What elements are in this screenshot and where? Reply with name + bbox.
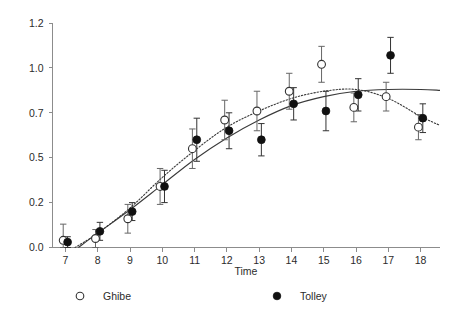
y-tick-label: 1.0 [29, 62, 44, 74]
x-tick-label: 10 [156, 254, 168, 266]
data-point-ghibe [124, 215, 132, 223]
data-points [59, 51, 426, 246]
data-point-tolley [419, 114, 427, 122]
data-point-tolley [225, 127, 233, 135]
data-point-tolley [128, 208, 136, 216]
data-point-tolley [354, 91, 362, 99]
x-tick-label: 8 [95, 254, 101, 266]
scatter-plot-with-error-bars: 0.00.20.50.71.01.2 789101112131415161718… [0, 0, 461, 313]
data-point-ghibe [221, 116, 229, 124]
data-point-tolley [387, 51, 395, 59]
legend-label-tolley: Tolley [300, 290, 328, 302]
legend-marker-ghibe [76, 292, 84, 300]
x-tick-label: 12 [221, 254, 233, 266]
data-point-tolley [161, 183, 169, 191]
x-tick-label: 7 [62, 254, 68, 266]
data-point-tolley [257, 136, 265, 144]
axes [53, 23, 441, 248]
data-point-tolley [64, 238, 72, 246]
data-point-ghibe [350, 104, 358, 112]
error-bars [60, 37, 426, 247]
data-point-ghibe [188, 145, 196, 153]
x-tick-label: 11 [189, 254, 200, 266]
y-axis-ticks: 0.00.20.50.71.01.2 [29, 17, 53, 254]
y-tick-label: 0.5 [29, 151, 44, 163]
x-tick-label: 13 [253, 254, 265, 266]
x-axis-title: Time [235, 265, 258, 277]
x-tick-label: 15 [318, 254, 330, 266]
y-tick-label: 1.2 [29, 17, 44, 29]
x-tick-label: 16 [350, 254, 362, 266]
legend-label-ghibe: Ghibe [103, 290, 131, 302]
legend: Ghibe Tolley [76, 290, 327, 302]
y-tick-label: 0.2 [29, 196, 44, 208]
data-point-tolley [193, 136, 201, 144]
data-point-ghibe [382, 93, 390, 101]
data-point-ghibe [318, 60, 326, 68]
x-tick-label: 18 [415, 254, 427, 266]
x-axis-ticks: 789101112131415161718 [62, 248, 426, 266]
y-tick-label: 0.7 [29, 107, 44, 119]
x-tick-label: 9 [127, 254, 133, 266]
data-point-tolley [322, 107, 330, 115]
legend-marker-tolley [273, 292, 281, 300]
data-point-tolley [290, 100, 298, 108]
x-tick-label: 14 [286, 254, 298, 266]
data-point-tolley [96, 227, 104, 235]
y-tick-label: 0.0 [29, 241, 44, 253]
chart-figure: 0.00.20.50.71.01.2 789101112131415161718… [0, 0, 461, 313]
data-point-ghibe [92, 235, 100, 243]
data-point-ghibe [285, 87, 293, 95]
data-point-ghibe [253, 107, 261, 115]
data-point-ghibe [415, 123, 423, 131]
x-tick-label: 17 [382, 254, 394, 266]
